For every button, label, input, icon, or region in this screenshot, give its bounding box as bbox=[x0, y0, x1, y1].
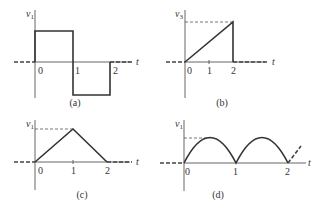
x-label: t bbox=[136, 56, 139, 67]
tick-0: 0 bbox=[38, 65, 43, 76]
tick-0: 0 bbox=[185, 166, 190, 177]
tick-2: 2 bbox=[105, 165, 110, 176]
rectified-sine-wave bbox=[184, 138, 288, 164]
tick-0: 0 bbox=[187, 65, 192, 76]
tick-1: 1 bbox=[75, 65, 80, 76]
tick-1: 1 bbox=[71, 165, 76, 176]
caption: (a) bbox=[69, 97, 80, 109]
caption: (b) bbox=[216, 97, 228, 109]
x-label: t bbox=[272, 56, 275, 67]
tick-2: 2 bbox=[231, 65, 236, 76]
tick-2: 2 bbox=[113, 65, 118, 76]
y-label: v1 bbox=[26, 8, 34, 21]
tick-2: 2 bbox=[285, 166, 290, 177]
continuation-dashed bbox=[288, 146, 301, 163]
panel-c: v1 t 0 1 2 (c) bbox=[14, 118, 139, 201]
caption: (c) bbox=[76, 189, 87, 201]
y-label: v1 bbox=[26, 118, 34, 131]
panel-a: v1 t 0 1 2 (a) bbox=[14, 8, 139, 109]
x-label: t bbox=[136, 156, 139, 167]
square-wave bbox=[35, 31, 110, 95]
panel-d: v1 t 0 1 2 (d) bbox=[160, 118, 311, 201]
y-label: v1 bbox=[175, 118, 183, 131]
tick-0: 0 bbox=[38, 165, 43, 176]
x-label: t bbox=[308, 157, 311, 168]
tick-1: 1 bbox=[233, 166, 238, 177]
y-label: v3 bbox=[175, 8, 183, 21]
caption: (d) bbox=[212, 189, 224, 201]
tick-1: 1 bbox=[207, 65, 212, 76]
waveform-figure: v1 t 0 1 2 (a) v3 t 0 1 2 (b) v1 t 0 1 2… bbox=[0, 0, 325, 206]
ramp-wave bbox=[185, 22, 233, 62]
panel-b: v3 t 0 1 2 (b) bbox=[166, 8, 275, 109]
triangle-wave bbox=[35, 129, 107, 162]
